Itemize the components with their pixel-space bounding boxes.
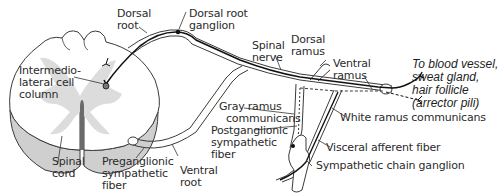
label-dorsal-root-ganglion: Dorsal root ganglion [189, 8, 248, 32]
label-ventral-root: Ventral root [180, 165, 218, 189]
label-gray-ramus-communicans: Gray ramus communicans [219, 101, 301, 125]
spinal-cord [10, 31, 160, 174]
label-intermediolateral-cell-column: Intermedio- lateral cell column [19, 65, 81, 101]
dorsal-root-ganglion-cell [176, 30, 180, 34]
label-postganglionic-sympathetic-fiber: Postganglionic sympathetic fiber [211, 125, 288, 161]
label-preganglionic-sympathetic-fiber: Preganglionic sympathetic fiber [102, 156, 173, 192]
chain-ganglion-cell [291, 144, 295, 148]
label-visceral-afferent-fiber: Visceral afferent fiber [326, 142, 440, 154]
sympathetic-chain-ganglion [289, 135, 310, 192]
label-white-ramus-communicans: White ramus communicans [340, 112, 486, 124]
label-ventral-ramus: Ventral ramus [333, 58, 371, 82]
label-dorsal-ramus: Dorsal ramus [291, 34, 325, 58]
label-spinal-nerve: Spinal nerve [252, 40, 285, 64]
label-dorsal-root: Dorsal root [117, 8, 151, 32]
label-spinal-cord: Spinal cord [52, 156, 85, 180]
label-target-tissues: To blood vessel, sweat gland, hair folli… [412, 58, 498, 110]
label-sympathetic-chain-ganglion: Sympathetic chain ganglion [316, 160, 464, 172]
